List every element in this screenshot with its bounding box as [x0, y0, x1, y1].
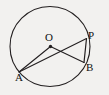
point-label-p: P [88, 30, 94, 41]
point-label-a: A [15, 72, 23, 83]
geometry-figure: O P B A [0, 0, 109, 95]
center-point-dot [49, 45, 52, 48]
point-label-o: O [45, 32, 53, 43]
point-label-b: B [86, 62, 93, 73]
